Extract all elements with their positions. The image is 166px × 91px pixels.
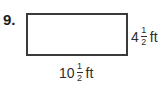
rectangle-figure	[26, 13, 128, 56]
height-numerator: 1	[141, 26, 146, 35]
width-label: 10 1 2 ft	[59, 62, 93, 83]
width-whole: 10	[59, 65, 75, 81]
height-whole: 4	[131, 29, 139, 45]
problem-number: 9.	[3, 11, 16, 28]
height-label: 4 1 2 ft	[131, 26, 158, 47]
width-unit: ft	[86, 65, 94, 81]
height-denominator: 2	[141, 38, 146, 47]
height-fraction: 1 2	[141, 26, 147, 47]
height-unit: ft	[150, 29, 158, 45]
width-fraction: 1 2	[77, 62, 83, 83]
width-numerator: 1	[77, 62, 82, 71]
width-denominator: 2	[77, 74, 82, 83]
